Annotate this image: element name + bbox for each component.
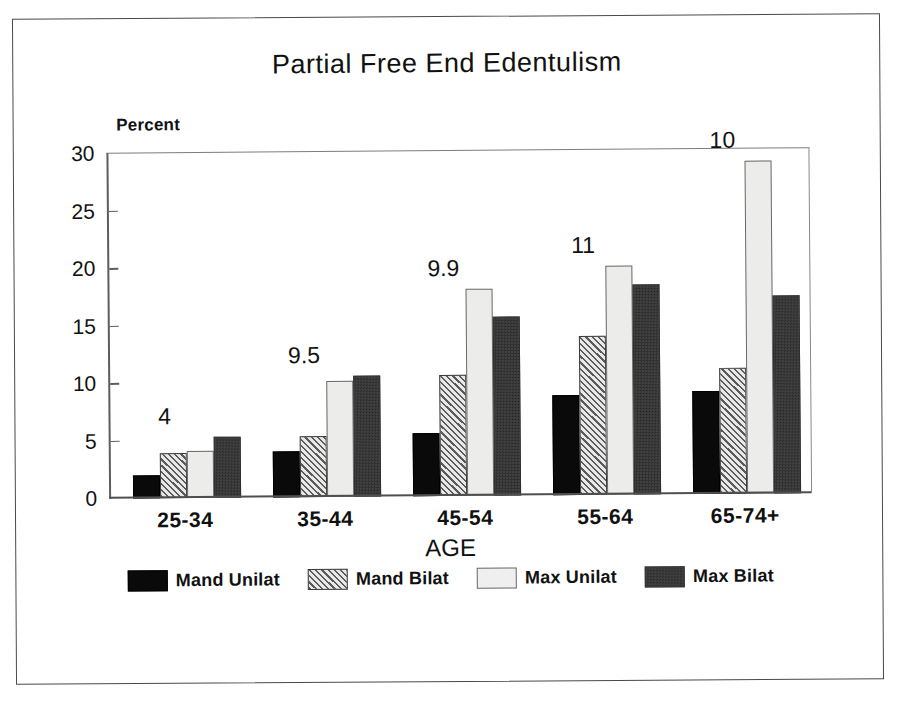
x-axis-tick-labels: 25-3435-4445-5455-6465-74+ [0, 0, 895, 4]
bar [745, 160, 775, 494]
bars-layer: 49.59.91110 [108, 148, 808, 153]
bar-group-value-label: 10 [709, 126, 735, 153]
x-axis-tick-label: 65-74+ [711, 503, 780, 528]
bar [160, 453, 187, 498]
y-axis-tick-30: 30 [60, 142, 108, 166]
bar [466, 289, 495, 496]
bar [133, 475, 160, 498]
bar [773, 295, 802, 493]
chart-legend: Mand UnilatMand BilatMax UnilatMax Bilat [2, 564, 898, 592]
legend-item[interactable]: Mand Unilat [128, 569, 280, 591]
bar [692, 390, 720, 494]
legend-label: Mand Bilat [356, 568, 449, 590]
chart-figure: Partial Free End Edentulism Percent 0510… [0, 0, 898, 704]
legend-item[interactable]: Max Unilat [477, 567, 617, 589]
legend-label: Max Bilat [693, 565, 774, 587]
bar [579, 336, 607, 495]
legend-swatch-icon [128, 570, 168, 591]
bar-group [690, 148, 801, 494]
bar [187, 451, 214, 498]
y-axis-tick-15: 15 [62, 314, 110, 338]
bar-group-value-label: 9.5 [288, 342, 320, 369]
legend-item[interactable]: Max Bilat [645, 565, 774, 587]
x-axis-tick-label: 35-44 [297, 507, 353, 531]
plot-area: 051015202530 49.59.91110 [106, 147, 812, 499]
bar [300, 436, 327, 497]
x-axis-title: AGE [1, 530, 898, 565]
bar [605, 266, 634, 495]
bar [493, 316, 521, 496]
bar-group [550, 149, 661, 495]
legend-label: Max Unilat [525, 567, 617, 589]
x-axis-tick-label: 55-64 [577, 505, 633, 529]
chart-title: Partial Free End Edentulism [0, 44, 896, 82]
y-axis-tick-mark [111, 440, 120, 442]
y-axis-tick-10: 10 [62, 372, 110, 396]
y-axis-tick-20: 20 [61, 257, 109, 281]
bar-group-value-label: 9.9 [427, 255, 459, 282]
legend-swatch-icon [308, 569, 348, 590]
bar [439, 375, 467, 496]
y-axis-tick-0: 0 [63, 487, 111, 511]
legend-swatch-icon [477, 567, 517, 588]
bar-group-value-label: 4 [158, 403, 171, 430]
y-axis-tick-5: 5 [63, 429, 111, 453]
bar [413, 433, 440, 496]
y-axis-tick-mark [110, 325, 119, 327]
y-axis-tick-mark [110, 383, 119, 385]
bar [326, 381, 354, 497]
x-axis-tick-label: 45-54 [437, 506, 493, 530]
y-axis-tick-mark [109, 268, 118, 270]
y-axis-label: Percent [116, 115, 180, 136]
x-axis-tick-label: 25-34 [157, 508, 213, 532]
bar-group [410, 150, 521, 496]
bar-group [270, 152, 381, 498]
legend-item[interactable]: Mand Bilat [308, 568, 449, 590]
y-axis-tick-25: 25 [61, 199, 109, 223]
y-axis-tick-mark [109, 210, 118, 212]
bar-group [130, 153, 241, 499]
legend-label: Mand Unilat [176, 569, 280, 591]
bar [214, 437, 241, 498]
bar [273, 451, 300, 497]
bar [632, 284, 661, 495]
bar [719, 367, 747, 494]
legend-swatch-icon [645, 566, 685, 587]
bar-group-value-label: 11 [571, 232, 595, 259]
bar [552, 395, 580, 495]
bar [353, 376, 381, 497]
scanned-page: Partial Free End Edentulism Percent 0510… [0, 0, 898, 704]
